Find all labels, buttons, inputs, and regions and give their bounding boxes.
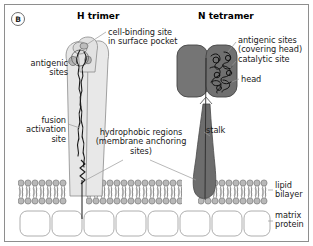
label-lipid-bilayer: lipid bilayer [275, 181, 303, 200]
label-head: head [241, 75, 261, 84]
label-fusion-activation-site: fusion activation site [4, 116, 66, 144]
lipid-bilayer-graphic [18, 180, 267, 204]
label-hydrophobic-regions: hydrophobic regions (membrane anchoring … [93, 128, 189, 156]
panel-letter: B [11, 12, 25, 26]
label-stalk: stalk [206, 126, 225, 135]
label-cell-binding-site: cell-binding site in surface pocket [108, 28, 177, 47]
label-matrix-protein: matrix protein [275, 211, 304, 230]
label-antigenic-sites-n: antigenic sites (covering head) catalyti… [238, 36, 302, 64]
n-tetramer-graphic [177, 45, 237, 200]
h-trimer-title: H trimer [77, 11, 119, 21]
n-tetramer-title: N tetramer [198, 11, 254, 21]
label-antigenic-sites-h: antigenic sites [4, 59, 68, 78]
figure-panel: B H trimer N tetramer cell-binding site … [0, 0, 313, 246]
matrix-protein-graphic [20, 211, 270, 236]
